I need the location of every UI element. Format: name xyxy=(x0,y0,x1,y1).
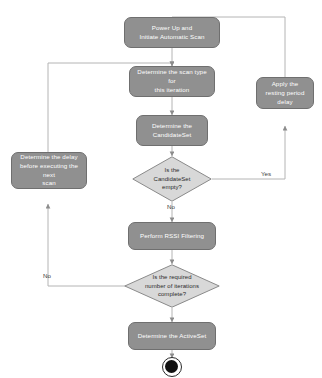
node-determine-next-scan-delay[interactable]: Determine the delay before executing the… xyxy=(11,152,87,189)
node-determine-candidateset[interactable]: Determine the CandidateSet xyxy=(136,115,208,146)
edge-label-no-iterations: No xyxy=(43,272,51,279)
node-apply-resting-period-delay[interactable]: Apply the resting period delay xyxy=(256,77,314,109)
node-determine-scan-type[interactable]: Determine the scan type for this iterati… xyxy=(129,66,215,97)
decision-candidateset-empty[interactable]: Is the CandidateSet empty? xyxy=(132,156,212,202)
flowchart-canvas: Power Up and Initiate Automatic Scan Det… xyxy=(0,0,322,378)
edge-label-yes-candidateset: Yes xyxy=(261,170,271,177)
decision-iterations-label: Is the required number of iterations com… xyxy=(124,264,220,308)
node-power-up-initiate-scan[interactable]: Power Up and Initiate Automatic Scan xyxy=(124,17,220,48)
edge-decision2-no-to-nextscandelay xyxy=(48,204,131,286)
edge-label-no-candidateset: No xyxy=(167,203,175,210)
node-determine-activeset[interactable]: Determine the ActiveSet xyxy=(128,322,216,350)
end-state-marker xyxy=(162,357,182,377)
decision-iterations-complete[interactable]: Is the required number of iterations com… xyxy=(124,264,220,308)
decision-candidateset-label: Is the CandidateSet empty? xyxy=(132,156,212,202)
node-perform-rssi-filtering[interactable]: Perform RSSI Filtering xyxy=(128,222,216,250)
edge-decision1-yes-to-restingdelay xyxy=(212,126,285,179)
